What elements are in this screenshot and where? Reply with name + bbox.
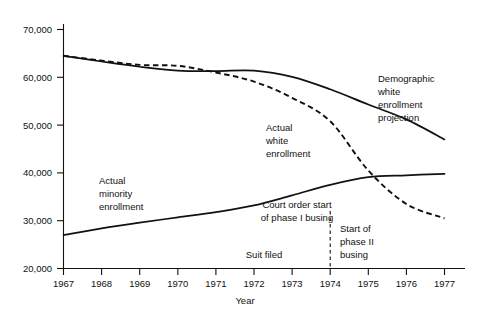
x-tick-label-1975: 1975: [358, 278, 379, 289]
annotation-line-1: Suit filed: [246, 249, 282, 260]
annotation-line-3: busing: [340, 249, 368, 260]
annotation-line-1: Actual: [266, 122, 292, 133]
enrollment-line-chart: 70,000 60,000 50,000 40,000 30,000 20,00…: [0, 0, 478, 311]
annotation-line-4: projection: [378, 112, 419, 123]
annotation-demographic-white-enrollment-projection: Demographic white enrollment projection: [377, 73, 435, 123]
x-tick-label-1971: 1971: [205, 278, 226, 289]
x-axis: 1967 1968 1969 1970 1971 1972 1973 1974 …: [53, 269, 465, 307]
annotation-actual-white-enrollment: Actual white enrollment: [265, 122, 311, 159]
x-tick-label-1976: 1976: [396, 278, 417, 289]
y-tick-label-50000: 50,000: [23, 120, 52, 131]
annotation-suit-filed: Suit filed: [246, 249, 282, 260]
annotation-line-1: Start of: [340, 223, 371, 234]
annotation-line-2: white: [377, 86, 400, 97]
x-tick-label-1970: 1970: [167, 278, 188, 289]
annotation-line-2: white: [265, 135, 288, 146]
annotation-line-1: Court order start: [262, 199, 332, 210]
x-tick-label-1968: 1968: [91, 278, 112, 289]
y-tick-label-30000: 30,000: [23, 215, 52, 226]
x-tick-label-1977: 1977: [434, 278, 455, 289]
y-axis: 70,000 60,000 50,000 40,000 30,000 20,00…: [23, 24, 64, 274]
y-tick-label-60000: 60,000: [23, 72, 52, 83]
y-tick-label-70000: 70,000: [23, 24, 52, 35]
x-tick-label-1974: 1974: [320, 278, 341, 289]
x-tick-label-1972: 1972: [243, 278, 264, 289]
x-tick-label-1969: 1969: [129, 278, 150, 289]
annotation-line-1: Demographic: [378, 73, 435, 84]
annotation-line-1: Actual: [99, 175, 125, 186]
annotation-actual-minority-enrollment: Actual minority enrollment: [99, 175, 144, 212]
annotation-line-2: minority: [99, 188, 133, 199]
series-demographic-white-projection: [64, 56, 445, 140]
y-tick-label-20000: 20,000: [23, 263, 52, 274]
annotation-line-3: enrollment: [378, 99, 423, 110]
x-tick-label-1967: 1967: [53, 278, 74, 289]
annotation-start-of-phase-ii-busing: Start of phase II busing: [340, 223, 374, 260]
annotation-line-3: enrollment: [266, 148, 311, 159]
annotation-line-3: enrollment: [99, 201, 144, 212]
annotation-court-order-start-of-phase-i-busing: Court order start of phase I busing: [261, 199, 333, 223]
annotation-line-2: of phase I busing: [261, 212, 333, 223]
y-tick-label-40000: 40,000: [23, 167, 52, 178]
x-tick-label-1973: 1973: [282, 278, 303, 289]
x-axis-title: Year: [235, 295, 254, 306]
chart-canvas: 70,000 60,000 50,000 40,000 30,000 20,00…: [0, 0, 478, 311]
annotation-line-2: phase II: [340, 236, 374, 247]
